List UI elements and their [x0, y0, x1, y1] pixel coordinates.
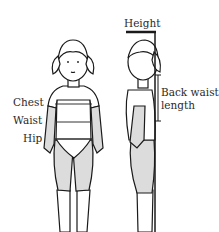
hip-label: Hip — [23, 132, 42, 144]
front-torso — [56, 96, 91, 140]
back-waist-label-line2: length — [161, 99, 195, 111]
height-label: Height — [124, 17, 160, 29]
front-pigtail-right — [86, 56, 94, 74]
front-figure — [44, 40, 103, 232]
front-right-leg — [77, 190, 90, 232]
side-legs — [137, 190, 153, 232]
back-waist-bracket — [155, 75, 161, 121]
back-waist-label-line1: Back waist — [161, 86, 219, 98]
side-thighs — [130, 140, 154, 193]
waist-label: Waist — [13, 114, 42, 126]
front-pigtail-left — [52, 56, 60, 74]
chest-label: Chest — [13, 96, 44, 108]
front-left-leg — [57, 190, 70, 232]
